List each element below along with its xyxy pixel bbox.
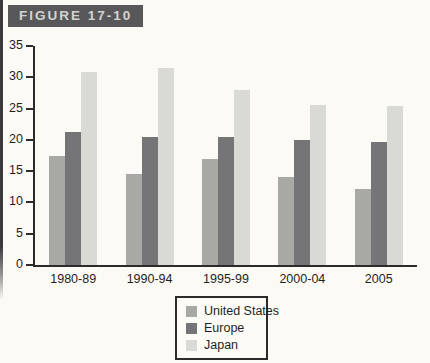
y-tick-mark (26, 139, 33, 141)
bar-group-2000-04: 2000-04 (278, 105, 326, 265)
legend-swatch-europe (186, 323, 197, 334)
legend-item-europe: Europe (186, 321, 260, 335)
figure-label: FIGURE 17-10 (8, 5, 143, 27)
legend-item-united-states: United States (186, 304, 260, 318)
y-tick-mark (26, 108, 33, 110)
bar-japan-2005 (387, 106, 403, 265)
bar-chart: 05101520253035 1980-891990-941995-992000… (33, 46, 417, 267)
bar-group-1980-89: 1980-89 (49, 72, 97, 265)
bar-europe-1990-94 (142, 137, 158, 265)
bar-united-states-1980-89 (49, 156, 65, 266)
legend-swatch-united-states (186, 306, 197, 317)
bar-japan-1990-94 (158, 68, 174, 265)
bar-united-states-2005 (355, 189, 371, 265)
y-tick-label: 10 (0, 194, 23, 208)
bar-europe-1995-99 (218, 137, 234, 265)
bar-japan-2000-04 (310, 105, 326, 265)
y-tick-mark (26, 201, 33, 203)
y-tick-label: 30 (0, 69, 23, 83)
bar-united-states-2000-04 (278, 177, 294, 265)
y-tick-label: 35 (0, 38, 23, 52)
x-tick-label-2000-04: 2000-04 (279, 272, 325, 286)
bar-group-2005: 2005 (355, 106, 403, 265)
y-tick-mark (26, 233, 33, 235)
y-tick-label: 5 (0, 226, 23, 240)
bar-europe-2000-04 (294, 140, 310, 265)
y-tick-mark (26, 45, 33, 47)
bar-groups: 1980-891990-941995-992000-042005 (35, 46, 417, 265)
legend-swatch-japan (186, 340, 197, 351)
bar-group-1990-94: 1990-94 (126, 68, 174, 265)
bar-europe-1980-89 (65, 132, 81, 265)
bar-group-1995-99: 1995-99 (202, 90, 250, 265)
x-tick-label-2005: 2005 (365, 272, 393, 286)
bar-japan-1980-89 (81, 72, 97, 265)
bar-europe-2005 (371, 142, 387, 265)
x-tick-label-1995-99: 1995-99 (203, 272, 249, 286)
legend-label-europe: Europe (204, 321, 244, 335)
figure-panel: FIGURE 17-10 05101520253035 1980-891990-… (0, 0, 430, 363)
y-tick-label: 15 (0, 163, 23, 177)
bar-united-states-1995-99 (202, 159, 218, 265)
y-tick-label: 25 (0, 101, 23, 115)
y-tick-label: 20 (0, 132, 23, 146)
bar-japan-1995-99 (234, 90, 250, 265)
legend: United StatesEuropeJapan (175, 296, 268, 360)
x-tick-label-1980-89: 1980-89 (50, 272, 96, 286)
y-tick-mark (26, 170, 33, 172)
bar-united-states-1990-94 (126, 174, 142, 265)
y-tick-mark (26, 264, 33, 266)
x-tick-label-1990-94: 1990-94 (127, 272, 173, 286)
y-tick-label: 0 (0, 257, 23, 271)
y-tick-mark (26, 76, 33, 78)
legend-label-united-states: United States (204, 304, 279, 318)
legend-label-japan: Japan (204, 338, 238, 352)
legend-item-japan: Japan (186, 338, 260, 352)
